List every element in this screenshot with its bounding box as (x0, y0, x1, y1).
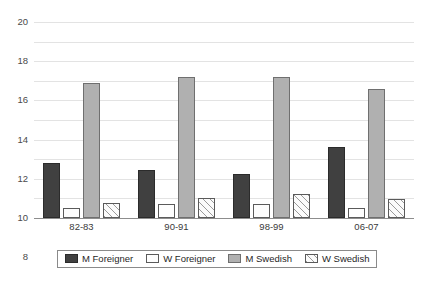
x-axis-tick-label: 06-07 (319, 222, 414, 232)
bar (293, 194, 310, 219)
bar-chart: 02468101214161820 82-8390-9198-9906-07 M… (0, 0, 439, 282)
legend-item-label: W Swedish (322, 254, 370, 264)
legend-swatch-icon (65, 254, 78, 263)
y-axis-tick-label: 14 (17, 135, 28, 145)
bar (328, 147, 345, 218)
bar-group (319, 22, 414, 218)
y-axis-tick-label: 10 (17, 213, 28, 223)
legend-swatch-icon (305, 254, 318, 263)
legend-item[interactable]: M Swedish (228, 254, 291, 264)
bar (63, 208, 80, 218)
y-axis-tick-label: 20 (17, 17, 28, 27)
legend-item[interactable]: W Foreigner (146, 254, 215, 264)
x-axis-tick-label: 98-99 (224, 222, 319, 232)
bar-group (224, 22, 319, 218)
y-axis-tick-label: 8 (23, 252, 28, 262)
bar (233, 174, 250, 218)
bar (368, 89, 385, 218)
bar (103, 203, 120, 218)
axis-baseline: 0 (34, 218, 414, 219)
y-axis-tick-label: 18 (17, 56, 28, 66)
legend-swatch-icon (228, 254, 241, 263)
legend-item-label: M Foreigner (82, 254, 133, 264)
bar (198, 198, 215, 218)
legend-swatch-icon (146, 254, 159, 263)
legend-item-label: M Swedish (245, 254, 291, 264)
legend-item[interactable]: M Foreigner (65, 254, 133, 264)
x-axis-tick-labels: 82-8390-9198-9906-07 (34, 222, 414, 232)
bar (388, 199, 405, 218)
bar (273, 77, 290, 218)
bar-group (34, 22, 129, 218)
plot-area: 02468101214161820 (34, 22, 414, 218)
x-axis-tick-label: 90-91 (129, 222, 224, 232)
legend-item-label: W Foreigner (163, 254, 215, 264)
bar (83, 83, 100, 218)
legend-item[interactable]: W Swedish (305, 254, 370, 264)
y-axis-tick-label: 16 (17, 96, 28, 106)
bar-group (129, 22, 224, 218)
bar (253, 204, 270, 218)
bar (43, 163, 60, 218)
bar (138, 170, 155, 218)
bar (158, 204, 175, 218)
bar (178, 77, 195, 218)
bar (348, 208, 365, 218)
x-axis-tick-label: 82-83 (34, 222, 129, 232)
y-axis-tick-label: 12 (17, 174, 28, 184)
bar-groups (34, 22, 414, 218)
chart-legend: M ForeignerW ForeignerM SwedishW Swedish (57, 250, 377, 268)
